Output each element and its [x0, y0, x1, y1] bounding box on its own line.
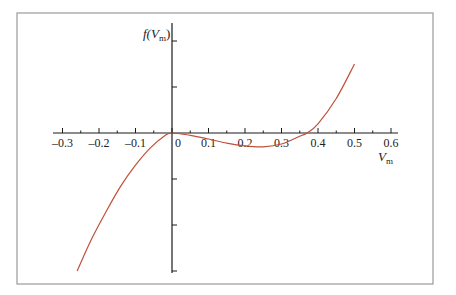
- x-axis-label: Vm: [378, 149, 393, 166]
- x-tick-label: 0: [175, 136, 181, 150]
- x-tick-label: 0.5: [347, 136, 362, 150]
- x-axis-ticks: –0.3–0.2–0.100.10.20.30.40.50.6: [51, 128, 399, 150]
- x-tick-label: –0.2: [88, 136, 110, 150]
- x-tick-label: 0.3: [274, 136, 289, 150]
- y-axis-ticks: [172, 41, 177, 271]
- x-tick-label: 0.6: [384, 136, 399, 150]
- x-tick-label: –0.3: [51, 136, 73, 150]
- y-axis-label: f(Vm): [143, 26, 170, 43]
- chart: –0.3–0.2–0.100.10.20.30.40.50.6 f(Vm) Vm: [0, 0, 456, 295]
- plot-frame: [17, 13, 433, 284]
- x-tick-label: –0.1: [124, 136, 146, 150]
- data-curve: [77, 64, 354, 271]
- x-tick-label: 0.2: [238, 136, 253, 150]
- x-tick-label: 0.4: [311, 136, 326, 150]
